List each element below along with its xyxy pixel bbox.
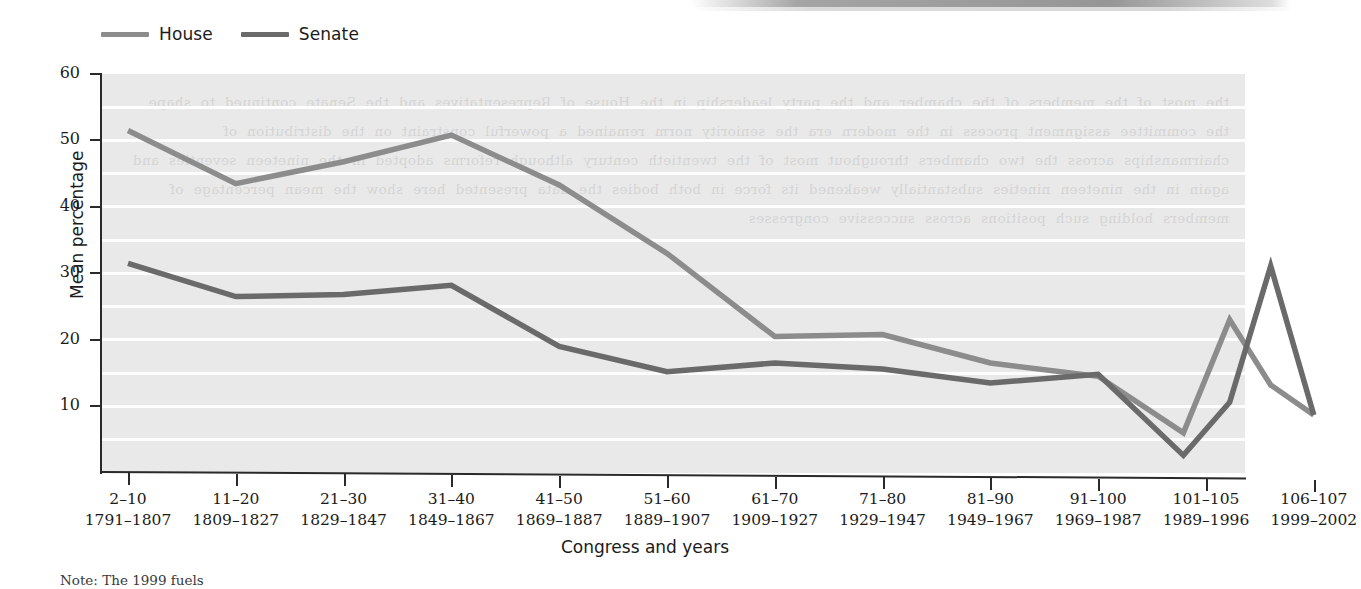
x-tick-label-years: 1791–1807 [68, 510, 188, 531]
y-tick-label: 30 [40, 262, 80, 281]
x-tick-label-years: 1999–2002 [1254, 510, 1361, 531]
x-tick-label: 71–801929–1947 [823, 489, 943, 531]
x-tick [344, 474, 346, 486]
legend-swatch-senate [241, 32, 289, 37]
x-tick [236, 474, 238, 486]
x-tick-label-congress: 91–100 [1070, 490, 1127, 508]
x-tick-label-congress: 106–107 [1280, 490, 1347, 508]
x-tick-label: 101–1051989–1996 [1146, 489, 1266, 531]
scan-artifact-band [690, 0, 1290, 7]
x-tick-label: 81–901949–1967 [930, 489, 1050, 531]
plot-area: the most of the members of the chamber a… [101, 74, 1245, 473]
x-tick-label-congress: 31–40 [428, 490, 475, 508]
y-tick-label: 20 [40, 329, 80, 348]
y-tick [90, 339, 101, 341]
legend-label-house: House [159, 24, 213, 44]
x-tick [667, 476, 669, 488]
y-tick-label: 10 [40, 395, 80, 414]
x-tick [883, 477, 885, 489]
figure-note: Note: The 1999 fuels [60, 572, 204, 588]
y-tick [90, 73, 101, 75]
y-tick [90, 405, 101, 407]
x-tick-label-congress: 71–80 [859, 490, 906, 508]
chart-legend: House Senate [101, 24, 359, 44]
x-tick-label: 91–1001969–1987 [1038, 489, 1158, 531]
x-tick-label-years: 1869–1887 [499, 510, 619, 531]
x-tick-label: 2–101791–1807 [68, 489, 188, 531]
y-tick [90, 206, 101, 208]
x-tick-label: 21–301829–1847 [284, 489, 404, 531]
x-tick-label-congress: 81–90 [967, 490, 1014, 508]
legend-entry-house: House [101, 24, 213, 44]
y-tick-label: 60 [40, 63, 80, 82]
x-tick-label-congress: 21–30 [320, 490, 367, 508]
x-tick-label-congress: 41–50 [536, 490, 583, 508]
x-tick [451, 475, 453, 487]
y-tick-label: 40 [40, 196, 80, 215]
x-tick [559, 476, 561, 488]
x-tick [128, 473, 130, 485]
x-tick-label-congress: 61–70 [751, 490, 798, 508]
x-tick-label-years: 1989–1996 [1146, 510, 1266, 531]
x-tick-label-years: 1969–1987 [1038, 510, 1158, 531]
x-tick-label: 41–501869–1887 [499, 489, 619, 531]
series-layer [101, 74, 1245, 473]
y-tick [90, 139, 101, 141]
x-tick-label-years: 1929–1947 [823, 510, 943, 531]
series-line-house [128, 131, 1314, 433]
x-tick-label: 51–601889–1907 [607, 489, 727, 531]
x-tick-label: 11–201809–1827 [176, 489, 296, 531]
x-tick-label-years: 1809–1827 [176, 510, 296, 531]
x-tick-label: 61–701909–1927 [715, 489, 835, 531]
x-tick [775, 477, 777, 489]
y-tick-label: 50 [40, 129, 80, 148]
x-tick-label-years: 1909–1927 [715, 510, 835, 531]
legend-swatch-house [101, 32, 149, 37]
legend-entry-senate: Senate [241, 24, 359, 44]
x-tick-label: 31–401849–1867 [391, 489, 511, 531]
x-tick-label-years: 1849–1867 [391, 510, 511, 531]
x-tick-label-congress: 2–10 [109, 490, 146, 508]
x-tick-label-years: 1889–1907 [607, 510, 727, 531]
x-tick-label-years: 1829–1847 [284, 510, 404, 531]
x-axis-title: Congress and years [0, 537, 1290, 557]
x-tick-label-congress: 11–20 [212, 490, 259, 508]
legend-label-senate: Senate [299, 24, 359, 44]
y-tick [90, 272, 101, 274]
x-tick-label-congress: 51–60 [643, 490, 690, 508]
scan-artifact-band-secondary [690, 7, 1290, 11]
x-tick-label: 106–1071999–2002 [1254, 489, 1361, 531]
x-tick-label-years: 1949–1967 [930, 510, 1050, 531]
x-tick-label-congress: 101–105 [1173, 490, 1240, 508]
